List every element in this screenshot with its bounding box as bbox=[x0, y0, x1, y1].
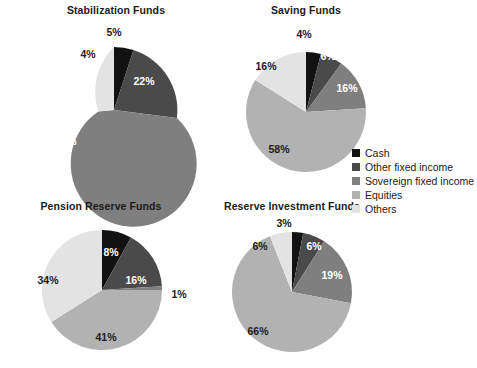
legend-label-others: Others bbox=[365, 203, 397, 215]
label-pension-equities: 41% bbox=[95, 331, 117, 343]
label-saving-equities: 58% bbox=[268, 143, 290, 155]
legend-swatch-cash-icon bbox=[352, 149, 360, 157]
legend-label-sovereign-fixed-income: Sovereign fixed income bbox=[365, 175, 474, 187]
label-stabilization-others: 4% bbox=[80, 48, 96, 60]
legend-label-cash: Cash bbox=[365, 147, 390, 159]
label-pension-others: 34% bbox=[37, 274, 59, 286]
label-pension-other-fixed-income: 16% bbox=[125, 274, 147, 286]
label-reserve-investment-other-fixed-income: 6% bbox=[306, 240, 322, 252]
legend-item-cash: Cash bbox=[352, 146, 474, 160]
pie-stabilization-svg: 5% 22% 69% 4% bbox=[18, 22, 218, 190]
legend-label-equities: Equities bbox=[365, 189, 402, 201]
legend-swatch-sovereign-fixed-income-icon bbox=[352, 177, 360, 185]
label-reserve-investment-sovereign-fixed-income: 19% bbox=[321, 269, 343, 281]
legend-label-other-fixed-income: Other fixed income bbox=[365, 161, 453, 173]
slice-stabilization-others bbox=[95, 47, 114, 112]
label-pension-sovereign-fixed-income: 1% bbox=[171, 288, 187, 300]
chart-legend: Cash Other fixed income Sovereign fixed … bbox=[352, 146, 474, 216]
legend-swatch-other-fixed-income-icon bbox=[352, 163, 360, 171]
panel-reserve-investment-funds: Reserve Investment Funds 3% 6% 19% 66% 6… bbox=[196, 200, 396, 368]
label-saving-cash: 4% bbox=[296, 28, 312, 40]
legend-swatch-others-icon bbox=[352, 205, 360, 213]
pie-pension-svg: 8% 16% 1% 41% 34% bbox=[18, 214, 218, 366]
legend-item-other-fixed-income: Other fixed income bbox=[352, 160, 474, 174]
label-reserve-investment-equities: 66% bbox=[247, 325, 269, 337]
panel-title-saving: Saving Funds bbox=[226, 4, 386, 16]
label-stabilization-sovereign-fixed-income: 69% bbox=[55, 135, 77, 147]
legend-item-others: Others bbox=[352, 202, 474, 216]
panel-title-stabilization: Stabilization Funds bbox=[2, 4, 230, 16]
label-stabilization-other-fixed-income: 22% bbox=[133, 75, 155, 87]
pie-stabilization: 5% 22% 69% 4% bbox=[18, 22, 218, 190]
legend-item-equities: Equities bbox=[352, 188, 474, 202]
label-saving-others: 16% bbox=[255, 60, 277, 72]
legend-item-sovereign-fixed-income: Sovereign fixed income bbox=[352, 174, 474, 188]
pie-reserve-investment-svg: 3% 6% 19% 66% 6% bbox=[214, 222, 394, 368]
label-reserve-investment-cash: 3% bbox=[276, 217, 292, 229]
panel-stabilization-funds: Stabilization Funds 5% 22% 69% 4% bbox=[2, 4, 230, 190]
pie-pension: 8% 16% 1% 41% 34% bbox=[18, 214, 218, 366]
panel-title-pension: Pension Reserve Funds bbox=[6, 200, 196, 212]
legend-swatch-equities-icon bbox=[352, 191, 360, 199]
pie-reserve-investment: 3% 6% 19% 66% 6% bbox=[214, 222, 394, 368]
pie-chart-figure: Stabilization Funds 5% 22% 69% 4% Saving… bbox=[0, 0, 477, 368]
label-saving-other-fixed-income: 6% bbox=[320, 50, 336, 62]
label-pension-cash: 8% bbox=[103, 246, 119, 258]
label-stabilization-cash: 5% bbox=[106, 26, 122, 38]
label-saving-sovereign-fixed-income: 16% bbox=[336, 82, 358, 94]
label-reserve-investment-others: 6% bbox=[252, 240, 268, 252]
